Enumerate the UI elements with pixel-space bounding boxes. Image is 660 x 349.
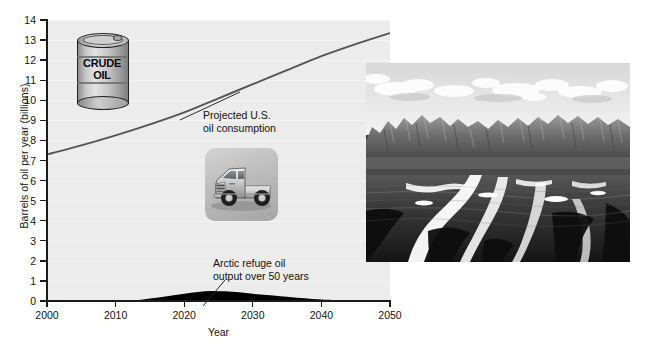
truck-illustration: [205, 148, 278, 221]
y-tick-label: 5: [0, 196, 36, 206]
y-tick: [40, 19, 47, 20]
x-tick: [321, 301, 322, 307]
annotation-line2: oil consumption: [203, 122, 276, 134]
x-tick-label: 2000: [21, 309, 73, 321]
arctic-landscape-illustration: [366, 63, 630, 262]
y-tick-label: 2: [0, 256, 36, 266]
annotation-line2: output over 50 years: [213, 270, 309, 282]
x-tick: [389, 301, 390, 307]
y-tick-label: 1: [0, 276, 36, 286]
crude-oil-drum-icon: CRUDE OIL: [75, 32, 129, 110]
drum-cap: [113, 35, 122, 41]
oil-chart: Barrels of oil per year (billions) Year …: [0, 0, 400, 349]
y-tick: [40, 120, 47, 121]
x-tick-label: 2050: [364, 309, 416, 321]
y-tick-label: 0: [0, 296, 36, 306]
drum-rib: [77, 82, 127, 84]
annotation-projected-consumption: Projected U.S. oil consumption: [203, 109, 276, 134]
x-axis-label: Year: [47, 326, 390, 338]
x-tick: [46, 301, 47, 307]
y-tick: [40, 39, 47, 40]
y-tick: [40, 180, 47, 181]
y-tick: [40, 260, 47, 261]
x-tick-label: 2020: [158, 309, 210, 321]
y-tick-label: 10: [0, 95, 36, 105]
x-tick-label: 2010: [90, 309, 142, 321]
annotation-line1: Arctic refuge oil: [213, 257, 285, 269]
y-tick-label: 11: [0, 75, 36, 85]
y-tick: [40, 140, 47, 141]
y-tick: [40, 200, 47, 201]
drum-label-line1: CRUDE: [83, 57, 121, 69]
x-tick: [115, 301, 116, 307]
arctic-leader-line: [203, 280, 233, 306]
y-tick-label: 3: [0, 236, 36, 246]
drum-bottom: [77, 96, 129, 110]
y-tick: [40, 80, 47, 81]
annotation-arctic-refuge: Arctic refuge oil output over 50 years: [213, 257, 309, 282]
x-tick-label: 2040: [295, 309, 347, 321]
y-tick: [40, 59, 47, 60]
x-tick-label: 2030: [227, 309, 279, 321]
y-tick-label: 9: [0, 115, 36, 125]
y-tick-label: 8: [0, 135, 36, 145]
arctic-refuge-photo: [366, 63, 630, 262]
y-tick: [40, 240, 47, 241]
y-tick-label: 7: [0, 156, 36, 166]
y-tick-label: 14: [0, 15, 36, 25]
y-tick: [40, 220, 47, 221]
pickup-truck-photo: [205, 148, 278, 221]
drum-label-line2: OIL: [93, 69, 111, 81]
x-tick: [184, 301, 185, 307]
figure-root: Barrels of oil per year (billions) Year …: [0, 0, 660, 349]
y-tick-label: 13: [0, 35, 36, 45]
y-tick: [40, 100, 47, 101]
y-tick: [40, 280, 47, 281]
x-tick: [252, 301, 253, 307]
y-tick-label: 6: [0, 176, 36, 186]
y-tick-label: 4: [0, 216, 36, 226]
y-tick: [40, 160, 47, 161]
drum-label: CRUDE OIL: [79, 58, 125, 81]
annotation-line1: Projected U.S.: [203, 109, 271, 121]
y-tick-label: 12: [0, 55, 36, 65]
